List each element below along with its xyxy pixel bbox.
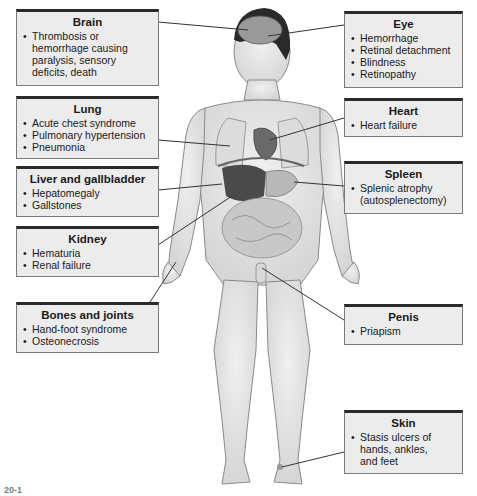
caption-label: 20-1 bbox=[4, 485, 22, 495]
callout-item: hemorrhage causing bbox=[23, 42, 152, 54]
liver-organ bbox=[222, 165, 266, 201]
callout-item: Renal failure bbox=[23, 259, 152, 271]
callout-item: Hepatomegaly bbox=[23, 187, 152, 199]
callout-item: Heart failure bbox=[351, 119, 456, 131]
callout-item: Retinal detachment bbox=[351, 44, 456, 56]
callout-heart: Heart Heart failure bbox=[344, 98, 463, 137]
figure-caption: 20-1 bbox=[4, 485, 22, 495]
leader-brain bbox=[158, 22, 248, 30]
callout-title: Kidney bbox=[23, 232, 152, 246]
callout-bones-joints: Bones and joints Hand-foot syndrome Oste… bbox=[16, 302, 159, 353]
callout-skin: Skin Stasis ulcers of hands, ankles, and… bbox=[344, 410, 463, 474]
callout-title: Heart bbox=[351, 104, 456, 118]
callout-penis: Penis Priapism bbox=[344, 304, 463, 345]
callout-kidney: Kidney Hematuria Renal failure bbox=[16, 226, 159, 277]
callout-item: Acute chest syndrome bbox=[23, 117, 152, 129]
callout-title: Brain bbox=[23, 15, 152, 29]
callout-spleen: Spleen Splenic atrophy (autosplenectomy) bbox=[344, 161, 463, 214]
callout-item: Stasis ulcers of bbox=[351, 431, 456, 443]
callout-item: Splenic atrophy bbox=[351, 182, 456, 194]
callout-item: Hemorrhage bbox=[351, 32, 456, 44]
callout-item: Blindness bbox=[351, 56, 456, 68]
callout-item: hands, ankles, bbox=[351, 443, 456, 455]
callout-eye: Eye Hemorrhage Retinal detachment Blindn… bbox=[344, 11, 463, 88]
callout-item: and feet bbox=[351, 455, 456, 467]
genital bbox=[256, 263, 266, 283]
callout-item: Pulmonary hypertension bbox=[23, 129, 152, 141]
callout-title: Liver and gallbladder bbox=[23, 172, 152, 186]
callout-title: Skin bbox=[351, 416, 456, 430]
callout-title: Lung bbox=[23, 102, 152, 116]
callout-item: Thrombosis or bbox=[23, 30, 152, 42]
callout-item: paralysis, sensory bbox=[23, 54, 152, 66]
callout-item: Gallstones bbox=[23, 199, 152, 211]
callout-item: Retinopathy bbox=[351, 68, 456, 80]
callout-lung: Lung Acute chest syndrome Pulmonary hype… bbox=[16, 96, 159, 159]
callout-liver-gallbladder: Liver and gallbladder Hepatomegaly Galls… bbox=[16, 166, 159, 217]
callout-item: Priapism bbox=[351, 325, 456, 337]
intestines bbox=[222, 198, 302, 258]
callout-item: (autosplenectomy) bbox=[351, 194, 456, 206]
callout-item: deficits, death bbox=[23, 66, 152, 78]
callout-item: Pneumonia bbox=[23, 141, 152, 153]
callout-title: Spleen bbox=[351, 167, 456, 181]
callout-title: Eye bbox=[351, 17, 456, 31]
callout-title: Bones and joints bbox=[23, 308, 152, 322]
callout-title: Penis bbox=[351, 310, 456, 324]
callout-brain: Brain Thrombosis or hemorrhage causing p… bbox=[16, 9, 159, 86]
callout-item: Osteonecrosis bbox=[23, 335, 152, 347]
callout-item: Hand-foot syndrome bbox=[23, 323, 152, 335]
callout-item: Hematuria bbox=[23, 247, 152, 259]
